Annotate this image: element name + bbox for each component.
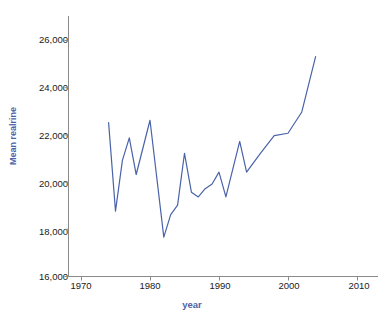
plot-area [0, 0, 384, 322]
y-tick-marks [65, 41, 69, 277]
chart-figure: Mean realrine year 26,000 24,000 22,000 … [0, 0, 384, 322]
x-tick-marks [82, 277, 358, 281]
data-line-series-0 [109, 57, 316, 238]
